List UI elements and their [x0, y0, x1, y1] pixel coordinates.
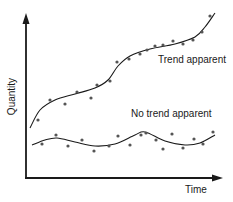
data-point	[201, 142, 204, 145]
y-axis-label: Quantity	[7, 77, 18, 114]
data-point	[108, 79, 111, 82]
data-point	[192, 137, 195, 140]
data-point	[89, 96, 92, 99]
data-point	[128, 143, 131, 146]
data-point	[95, 83, 98, 86]
data-point	[191, 38, 194, 41]
data-point	[154, 138, 157, 141]
data-point	[92, 149, 95, 152]
trend-curve	[32, 132, 215, 146]
chart-canvas	[0, 0, 233, 202]
data-point	[115, 60, 118, 63]
x-axis-label: Time	[185, 185, 207, 195]
data-point	[138, 52, 141, 55]
data-point	[181, 146, 184, 149]
data-point	[116, 134, 119, 137]
data-point	[40, 142, 43, 145]
data-point	[80, 138, 83, 141]
data-point	[181, 42, 184, 45]
data-point	[48, 98, 51, 101]
data-point	[161, 147, 164, 150]
y-axis-arrow-icon	[23, 13, 30, 24]
series-no-trend-apparent	[32, 130, 215, 152]
x-axis-arrow-icon	[212, 175, 223, 182]
annotation-no-trend-apparent: No trend apparent	[131, 109, 212, 119]
data-point	[36, 118, 39, 121]
annotation-trend-apparent: Trend apparent	[158, 55, 226, 65]
data-point	[54, 133, 57, 136]
data-point	[171, 39, 174, 42]
y-axis-label-container: Quantity	[2, 70, 22, 122]
data-point	[75, 90, 78, 93]
data-point	[200, 30, 203, 33]
data-point	[161, 43, 164, 46]
data-point	[63, 102, 66, 105]
data-point	[145, 48, 148, 51]
series-layer	[30, 13, 215, 153]
data-point	[139, 133, 142, 136]
data-point	[144, 131, 147, 134]
data-point	[66, 144, 69, 147]
data-point	[170, 132, 173, 135]
data-point	[211, 130, 214, 133]
data-point	[127, 57, 130, 60]
data-point	[107, 144, 110, 147]
data-point	[208, 14, 211, 17]
data-point	[153, 44, 156, 47]
